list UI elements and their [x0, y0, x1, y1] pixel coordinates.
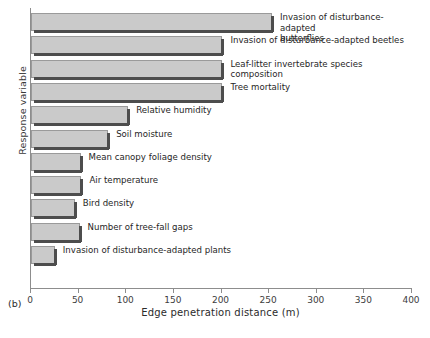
x-tick-label: 350: [355, 295, 372, 305]
bar-rect[interactable]: [31, 223, 80, 241]
x-tick-mark: [411, 288, 412, 293]
bar-rect[interactable]: [31, 106, 128, 124]
x-tick-label: 0: [27, 295, 33, 305]
bar-rect[interactable]: [31, 60, 222, 78]
plot-area: Invasion of disturbance-adapted butterfl…: [30, 8, 411, 288]
bar-item[interactable]: Invasion of disturbance-adapted plants: [31, 246, 412, 269]
bar-rect[interactable]: [31, 83, 222, 101]
bar-rect[interactable]: [31, 130, 108, 148]
bar-item[interactable]: Number of tree-fall gaps: [31, 223, 412, 246]
bar-label: Invasion of disturbance-adapted plants: [63, 245, 231, 256]
x-tick-mark: [363, 288, 364, 293]
x-tick-mark: [268, 288, 269, 293]
bar-item[interactable]: Tree mortality: [31, 83, 412, 106]
bar-item[interactable]: Mean canopy foliage density: [31, 153, 412, 176]
bar-label: Relative humidity: [136, 105, 211, 116]
bar-item[interactable]: Relative humidity: [31, 106, 412, 129]
x-axis-title: Edge penetration distance (m): [30, 307, 411, 318]
bar-label: Soil moisture: [116, 129, 172, 140]
bar-series: Invasion of disturbance-adapted butterfl…: [30, 8, 411, 288]
bar-label: Leaf-litter invertebrate species composi…: [230, 59, 412, 80]
x-tick-mark: [173, 288, 174, 293]
bar-rect[interactable]: [31, 36, 222, 54]
bar-item[interactable]: Leaf-litter invertebrate species composi…: [31, 60, 412, 83]
bar-rect[interactable]: [31, 176, 81, 194]
figure-panel: Response variable Invasion of disturbanc…: [0, 0, 430, 338]
x-tick-mark: [221, 288, 222, 293]
x-tick-label: 100: [117, 295, 134, 305]
panel-caption: (b): [8, 298, 21, 309]
x-tick-label: 400: [402, 295, 419, 305]
x-tick-label: 250: [260, 295, 277, 305]
bar-item[interactable]: Invasion of disturbance-adapted butterfl…: [31, 13, 412, 36]
bar-label: Bird density: [83, 198, 134, 209]
x-tick-mark: [30, 288, 31, 293]
bar-rect[interactable]: [31, 246, 55, 264]
x-tick-label: 150: [164, 295, 181, 305]
bar-item[interactable]: Bird density: [31, 199, 412, 222]
bar-rect[interactable]: [31, 153, 81, 171]
bar-item[interactable]: Soil moisture: [31, 130, 412, 153]
bar-label: Tree mortality: [230, 82, 290, 93]
x-tick-label: 50: [72, 295, 83, 305]
x-tick-mark: [125, 288, 126, 293]
bar-item[interactable]: Air temperature: [31, 176, 412, 199]
x-tick-mark: [316, 288, 317, 293]
bar-label: Invasion of disturbance-adapted beetles: [230, 35, 403, 46]
bar-label: Air temperature: [89, 175, 158, 186]
bar-rect[interactable]: [31, 13, 272, 31]
y-axis-title: Response variable: [17, 41, 28, 181]
x-tick-label: 200: [212, 295, 229, 305]
x-tick-mark: [78, 288, 79, 293]
bar-item[interactable]: Invasion of disturbance-adapted beetles: [31, 36, 412, 59]
x-tick-label: 300: [307, 295, 324, 305]
bar-label: Number of tree-fall gaps: [88, 222, 193, 233]
bar-rect[interactable]: [31, 199, 75, 217]
bar-label: Mean canopy foliage density: [89, 152, 212, 163]
